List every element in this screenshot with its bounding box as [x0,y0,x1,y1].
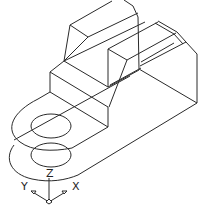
y-axis-label: Y [20,180,28,193]
model-edge [108,33,176,60]
model-edge [64,61,108,87]
model-edge [50,61,64,72]
hole-bottom [31,143,71,167]
z-axis-label: Z [46,167,54,180]
ucs-icon [31,178,67,204]
wireframe-model: Z Y X [0,0,204,207]
model-edge [12,92,108,150]
cad-viewport[interactable]: Z Y X [0,0,204,207]
model-edge [64,22,145,61]
model-edge [108,70,139,87]
origin-marker-icon [46,199,52,204]
model-edge [50,92,108,127]
x-axis-label: X [72,180,80,193]
model-edge [141,43,174,62]
model-edge [139,69,197,103]
model-edge [108,22,158,49]
model-edge [140,42,186,66]
model-edge [70,13,138,37]
model-edge [9,103,197,181]
model-edge [50,72,108,107]
model-edge [70,1,112,25]
hole-top [31,114,71,138]
model-edge [110,68,141,85]
